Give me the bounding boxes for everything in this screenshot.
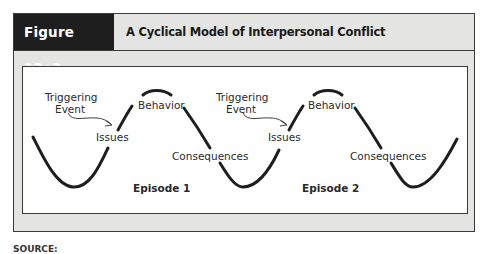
issues-label: Issues (268, 131, 301, 143)
behavior-label: Behavior (138, 99, 185, 111)
trigger-label-line1: Triggering (215, 91, 268, 103)
trigger-label-line2: Event (226, 103, 256, 115)
episode-label: Episode 2 (302, 182, 359, 194)
issues-label: Issues (96, 131, 129, 143)
consequences-label: Consequences (172, 150, 248, 162)
source-note: SOURCE: (13, 244, 58, 254)
diagram-panel (23, 67, 468, 214)
episode-label: Episode 1 (133, 182, 190, 194)
trigger-label-line2: Event (55, 103, 85, 115)
consequences-label: Consequences (350, 150, 426, 162)
trigger-label-line1: Triggering (44, 91, 97, 103)
behavior-label: Behavior (308, 99, 355, 111)
